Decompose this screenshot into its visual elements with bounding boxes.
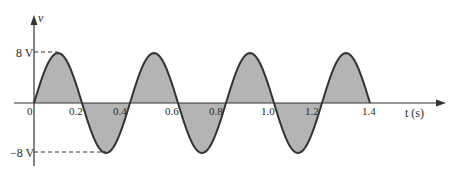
- sine-wave-chart: v t (s) 8 V −8 V 0 0.2 0.4 0.6 0.8 1.0 1…: [0, 0, 456, 177]
- tick-label-1.4: 1.4: [362, 105, 376, 117]
- neg-peak-label: −8 V: [10, 146, 35, 160]
- tick-label-1.0: 1.0: [261, 105, 275, 117]
- tick-label-0: 0: [27, 105, 33, 117]
- x-axis-label: t (s): [405, 106, 424, 120]
- tick-label-0.6: 0.6: [165, 105, 179, 117]
- tick-label-1.2: 1.2: [305, 105, 319, 117]
- tick-label-0.8: 0.8: [209, 105, 223, 117]
- pos-peak-label: 8 V: [16, 46, 34, 60]
- y-axis-arrow: [31, 15, 38, 25]
- tick-label-0.4: 0.4: [113, 105, 127, 117]
- y-axis-label: v: [38, 11, 44, 25]
- tick-label-0.2: 0.2: [69, 105, 83, 117]
- x-axis-arrow: [436, 100, 446, 107]
